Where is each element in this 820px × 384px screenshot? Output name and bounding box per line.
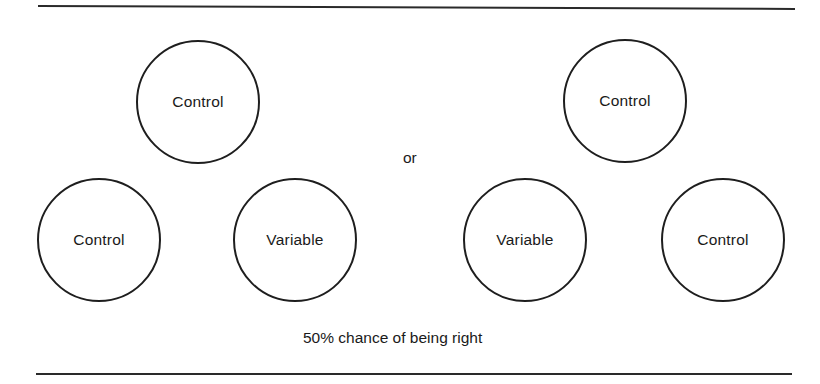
circle-label: Variable	[496, 231, 553, 249]
right-bottom-left-circle: Variable	[463, 178, 587, 302]
right-bottom-right-circle: Control	[661, 178, 785, 302]
left-top-circle: Control	[136, 40, 260, 164]
or-separator: or	[403, 149, 417, 167]
circle-label: Variable	[266, 231, 323, 249]
right-top-circle: Control	[563, 39, 687, 163]
circle-label: Control	[697, 231, 748, 249]
left-bottom-left-circle: Control	[37, 178, 161, 302]
top-rule	[38, 5, 795, 10]
bottom-rule	[36, 373, 792, 375]
left-bottom-right-circle: Variable	[233, 178, 357, 302]
caption: 50% chance of being right	[303, 329, 482, 347]
circle-label: Control	[599, 92, 650, 110]
circle-label: Control	[73, 231, 124, 249]
circle-label: Control	[172, 93, 223, 111]
